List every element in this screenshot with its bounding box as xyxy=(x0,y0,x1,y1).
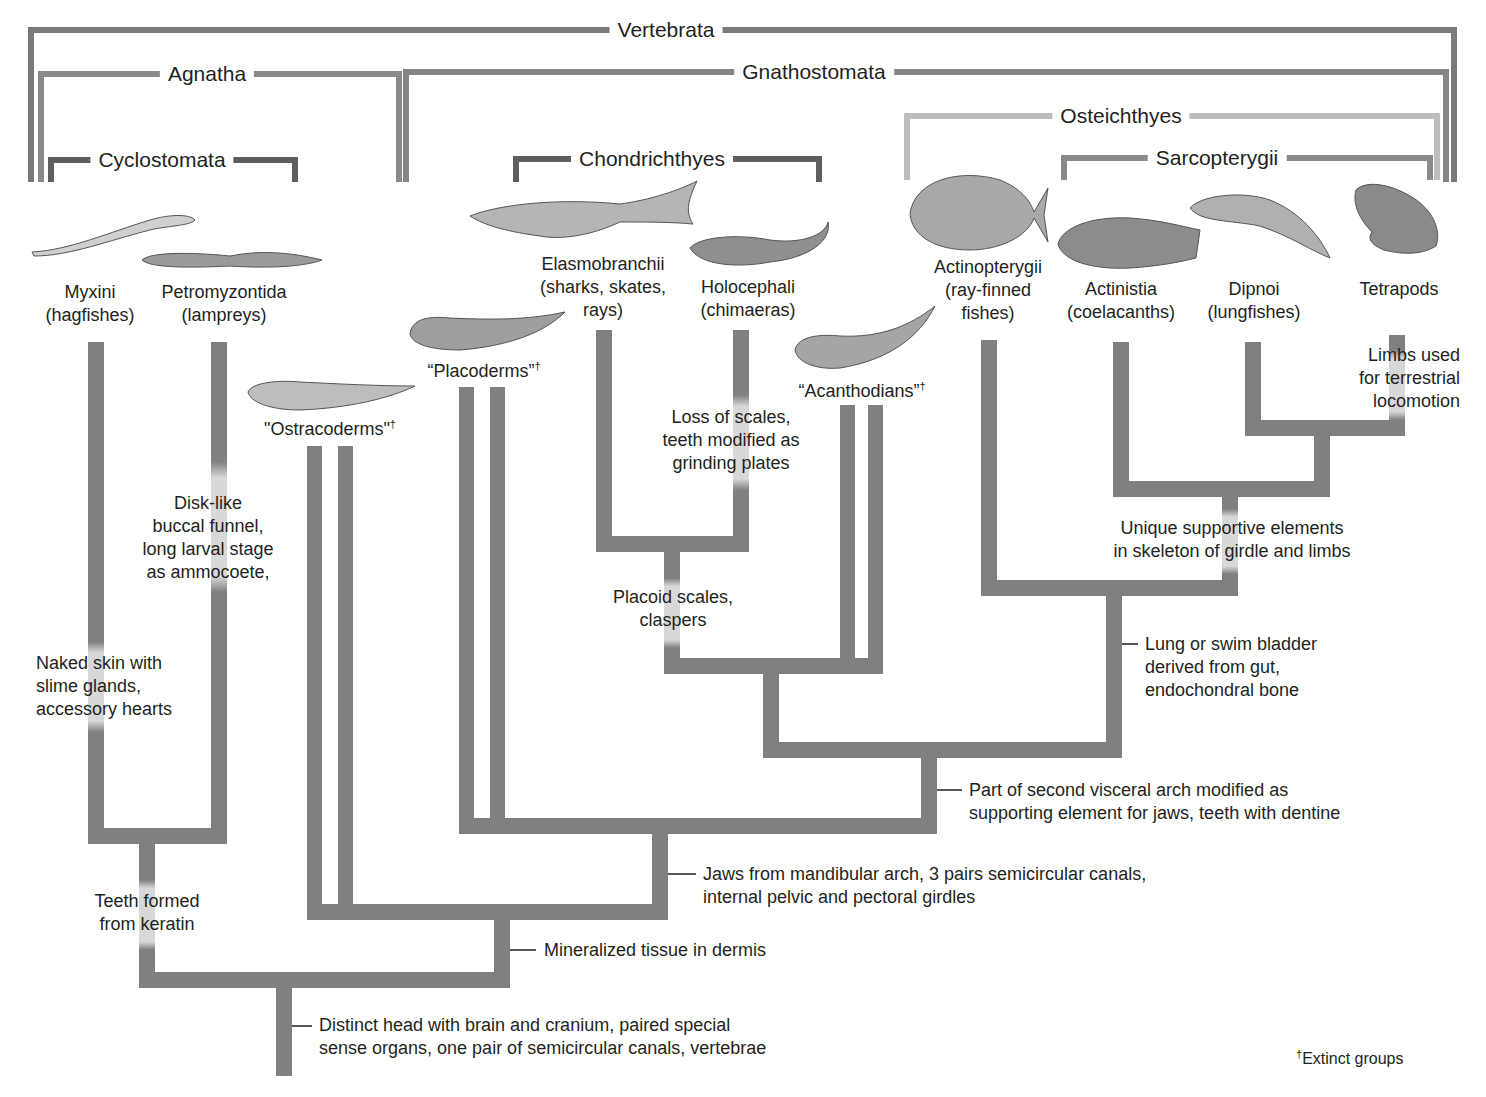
extinct-dagger: † xyxy=(919,380,925,392)
hagfish-illustration xyxy=(32,216,195,257)
lungfish-illustration xyxy=(1190,195,1330,258)
extinct-dagger: † xyxy=(534,360,540,372)
trait-naked-skin: Naked skin with slime glands, accessory … xyxy=(36,652,172,721)
lamprey-illustration xyxy=(142,253,322,268)
group-label-osteichthyes: Osteichthyes xyxy=(1052,104,1189,128)
taxon-tetrapods: Tetrapods xyxy=(1359,278,1438,301)
trait-loss-of-scales: Loss of scales, teeth modified as grindi… xyxy=(662,406,799,475)
trait-unique-supportive: Unique supportive elements in skeleton o… xyxy=(1113,517,1350,563)
taxon-actinistia: Actinistia (coelacanths) xyxy=(1067,278,1175,324)
legend-extinct-groups: †Extinct groups xyxy=(1296,1043,1404,1070)
trait-disk-like-funnel: Disk-like buccal funnel, long larval sta… xyxy=(142,492,273,584)
ray-finned-fish-illustration xyxy=(910,175,1048,250)
group-label-agnatha: Agnatha xyxy=(160,62,254,86)
taxon-holocephali: Holocephali (chimaeras) xyxy=(700,276,795,322)
frog-illustration xyxy=(1355,184,1438,253)
taxon-petromyzontida: Petromyzontida (lampreys) xyxy=(161,281,286,327)
group-label-gnathostomata: Gnathostomata xyxy=(734,60,894,84)
trait-limbs-terrestrial: Limbs used for terrestrial locomotion xyxy=(1359,344,1460,413)
trait-distinct-head: Distinct head with brain and cranium, pa… xyxy=(319,1014,766,1060)
trait-second-visceral-arch: Part of second visceral arch modified as… xyxy=(969,779,1340,825)
group-label-sarcopterygii: Sarcopterygii xyxy=(1148,146,1287,170)
shark-illustration xyxy=(470,181,697,237)
coelacanth-illustration xyxy=(1058,218,1200,268)
taxon-placoderms: “Placoderms”† xyxy=(427,355,540,383)
trait-jaws: Jaws from mandibular arch, 3 pairs semic… xyxy=(703,863,1146,909)
taxon-ostracoderms: "Ostracoderms"† xyxy=(264,413,396,441)
bracket-gnathostomata xyxy=(406,72,1446,182)
extinct-dagger: † xyxy=(390,418,396,430)
taxon-elasmobranchii: Elasmobranchii (sharks, skates, rays) xyxy=(540,253,666,322)
taxon-actinopterygii: Actinopterygii (ray-finned fishes) xyxy=(934,256,1042,325)
trait-teeth-keratin: Teeth formed from keratin xyxy=(94,890,199,936)
taxon-acanthodians: “Acanthodians”† xyxy=(798,375,925,403)
trait-mineralized-tissue: Mineralized tissue in dermis xyxy=(544,939,766,962)
acanthodian-illustration xyxy=(795,306,935,368)
chimaera-illustration xyxy=(690,222,828,265)
taxon-dipnoi: Dipnoi (lungfishes) xyxy=(1207,278,1300,324)
taxon-myxini: Myxini (hagfishes) xyxy=(45,281,134,327)
trait-placoid-scales: Placoid scales, claspers xyxy=(613,586,733,632)
group-label-chondrichthyes: Chondrichthyes xyxy=(571,147,733,171)
group-label-cyclostomata: Cyclostomata xyxy=(90,148,233,172)
trait-lung-swim-bladder: Lung or swim bladder derived from gut, e… xyxy=(1145,633,1317,702)
group-label-vertebrata: Vertebrata xyxy=(610,18,723,42)
ostracoderm-illustration xyxy=(248,381,415,410)
trait-connectors xyxy=(292,644,1138,1026)
vertebrate-cladogram: Vertebrata Agnatha Gnathostomata Cyclost… xyxy=(0,0,1486,1097)
